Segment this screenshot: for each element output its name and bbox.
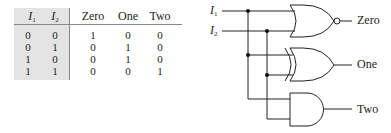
junction-dot (265, 29, 269, 33)
nor-gate (290, 5, 334, 37)
nor-bubble (334, 18, 340, 24)
junction-dot (246, 53, 250, 57)
junction-dot (246, 9, 250, 13)
junction-dot (265, 73, 269, 77)
xor-gate (290, 48, 334, 81)
and-gate (290, 93, 324, 126)
circuit-wiring (0, 0, 391, 133)
